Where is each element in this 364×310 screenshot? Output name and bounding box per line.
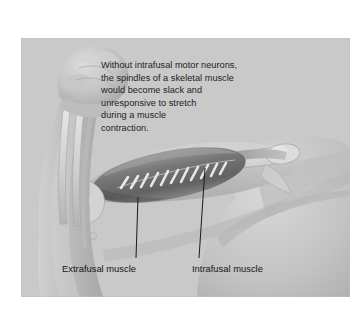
label-extrafusal-muscle: Extrafusal muscle — [62, 263, 136, 274]
figure-root: Without intrafusal motor neurons, the sp… — [0, 0, 364, 310]
caption-text: Without intrafusal motor neurons, the sp… — [101, 59, 271, 135]
label-intrafusal-muscle: Intrafusal muscle — [192, 263, 263, 274]
